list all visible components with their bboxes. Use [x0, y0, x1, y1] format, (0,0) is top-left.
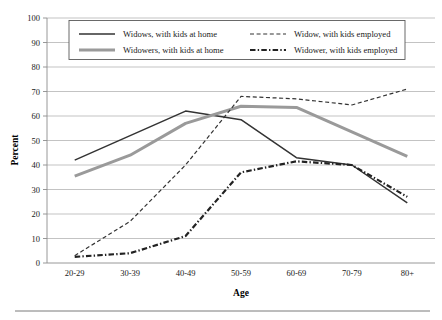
y-tick-label: 70	[32, 87, 41, 97]
legend-label-1: Widow, with kids employed	[294, 29, 391, 39]
y-tick-label: 80	[32, 62, 41, 72]
y-tick-label: 20	[32, 209, 41, 219]
y-tick-label: 60	[32, 111, 41, 121]
y-tick-labels: 0102030405060708090100	[27, 13, 40, 268]
line-chart: 0102030405060708090100 20-2930-3940-4950…	[0, 0, 442, 320]
y-tick-label: 50	[32, 136, 41, 146]
series-lines	[75, 89, 408, 257]
legend-label-0: Widows, with kids at home	[123, 29, 217, 39]
x-tick-label: 20-29	[65, 268, 85, 278]
x-tick-label: 60-69	[287, 268, 307, 278]
y-tick-label: 90	[32, 38, 41, 48]
y-tick-marks	[43, 18, 47, 263]
x-tick-label: 50-59	[231, 268, 251, 278]
series-line-3	[75, 161, 408, 257]
legend-label-2: Widowers, with kids at home	[123, 45, 224, 55]
x-tick-label: 30-39	[120, 268, 140, 278]
x-axis-title: Age	[233, 288, 249, 298]
x-tick-label: 40-49	[176, 268, 196, 278]
series-line-2	[75, 89, 408, 256]
y-axis-title: Percent	[10, 134, 20, 166]
legend-label-3: Widower, with kids employed	[294, 45, 398, 55]
x-tick-labels: 20-2930-3940-4950-5960-6970-7980+	[65, 268, 414, 278]
series-line-1	[75, 106, 408, 176]
x-tick-label: 80+	[401, 268, 415, 278]
y-tick-label: 10	[32, 234, 41, 244]
y-tick-label: 40	[32, 160, 41, 170]
y-tick-label: 30	[32, 185, 41, 195]
y-tick-label: 100	[27, 13, 40, 23]
x-tick-label: 70-79	[342, 268, 362, 278]
y-tick-label: 0	[36, 258, 40, 268]
chart-figure: 0102030405060708090100 20-2930-3940-4950…	[0, 0, 442, 320]
